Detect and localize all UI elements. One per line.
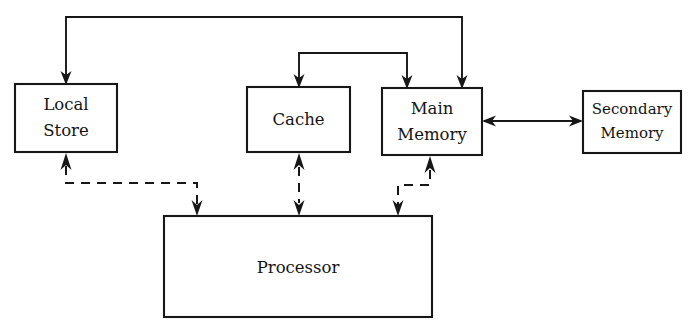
diagram-canvas: Local Store Cache Main Memory Secondary … [0,0,696,334]
edge-main-memory-secondary-memory [482,116,583,127]
memory-hierarchy-diagram: Local Store Cache Main Memory Secondary … [0,0,696,334]
node-processor[interactable]: Processor [164,216,432,317]
node-main-memory[interactable]: Main Memory [382,88,482,155]
local-store-processor-path [66,166,197,211]
edge-local-store-processor [61,153,203,216]
edge-cache-processor [294,153,305,216]
local-store-label-line1: Local [43,95,88,114]
inner-bus-rail [299,53,407,88]
secondary-memory-label-line2: Memory [600,124,664,142]
main-memory-label-line1: Main [411,99,454,118]
edge-inner-bus [294,53,413,89]
cache-label-line1: Cache [272,110,324,129]
processor-label: Processor [257,258,340,277]
node-secondary-memory[interactable]: Secondary Memory [583,91,681,153]
main-memory-processor-path [398,170,430,211]
node-cache[interactable]: Cache [247,87,350,152]
secondary-memory-label-line1: Secondary [592,100,673,118]
node-local-store[interactable]: Local Store [15,84,117,152]
local-store-label-line2: Store [43,121,89,140]
edge-main-memory-processor [393,156,436,216]
main-memory-label-line2: Memory [397,125,467,144]
